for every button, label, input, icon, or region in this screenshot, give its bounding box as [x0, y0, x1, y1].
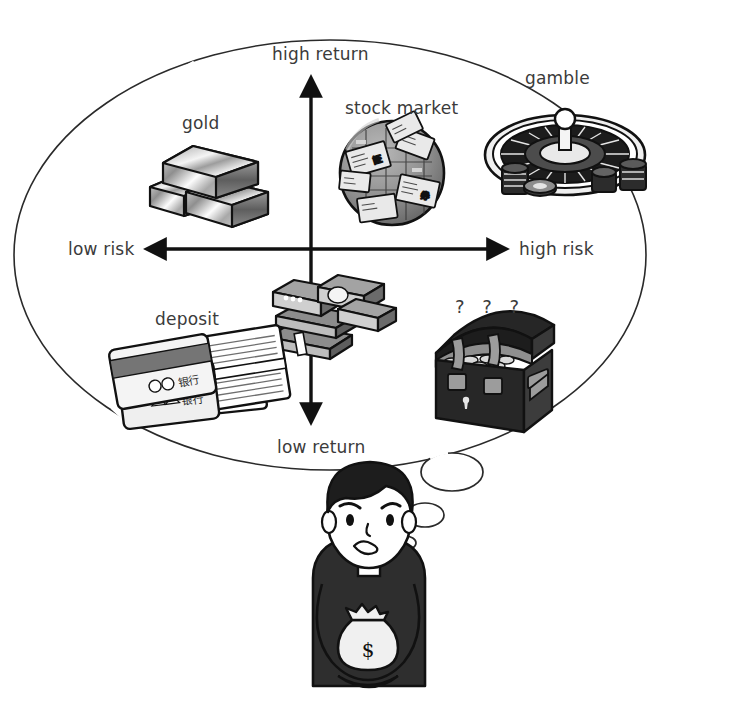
diagram-canvas: 証 券: [0, 0, 747, 714]
item-label-gamble: gamble: [525, 70, 590, 87]
money-bag-symbol: $: [362, 638, 375, 662]
item-label-unknown: ? ? ?: [455, 298, 525, 316]
axis-label-low-return: low return: [277, 439, 365, 456]
axis-label-high-risk: high risk: [519, 241, 594, 258]
item-label-deposit: deposit: [155, 311, 219, 328]
item-label-gold: gold: [182, 115, 220, 132]
axis-label-high-return: high return: [272, 46, 369, 63]
axis-label-low-risk: low risk: [68, 241, 134, 258]
item-label-stock-market: stock market: [345, 100, 458, 117]
worried-person-icon: $: [313, 462, 425, 687]
